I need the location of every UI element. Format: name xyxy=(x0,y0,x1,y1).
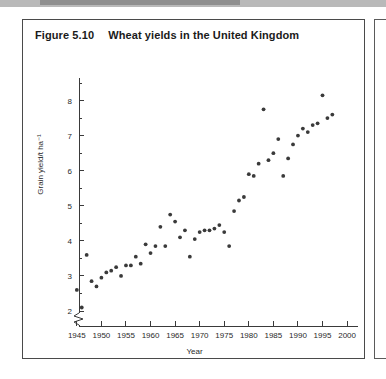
data-point xyxy=(129,264,133,268)
svg-text:7: 7 xyxy=(68,132,73,141)
data-point xyxy=(134,255,138,259)
svg-text:1975: 1975 xyxy=(215,331,233,340)
data-point xyxy=(306,130,310,134)
data-point xyxy=(252,174,256,178)
data-point xyxy=(149,251,153,255)
data-point xyxy=(237,199,241,203)
svg-text:1945: 1945 xyxy=(68,331,86,340)
svg-text:2: 2 xyxy=(68,307,73,316)
data-point xyxy=(114,265,118,269)
data-point xyxy=(163,244,167,248)
data-point xyxy=(227,244,231,248)
data-point xyxy=(183,228,187,232)
data-point xyxy=(222,230,226,234)
data-point xyxy=(330,113,334,117)
data-point xyxy=(124,264,128,268)
svg-text:1995: 1995 xyxy=(314,331,332,340)
figure-panel: Figure 5.10Wheat yields in the United Ki… xyxy=(22,19,365,359)
data-point xyxy=(213,227,217,231)
data-point xyxy=(139,262,143,266)
data-point xyxy=(173,220,177,224)
svg-text:6: 6 xyxy=(68,167,73,176)
svg-text:4: 4 xyxy=(68,237,73,246)
data-point xyxy=(232,209,236,213)
data-point xyxy=(291,142,295,146)
scatter-plot: 2345678194519501955196019651970197519801… xyxy=(23,20,366,360)
data-point xyxy=(203,228,207,232)
svg-text:1960: 1960 xyxy=(142,331,160,340)
svg-text:3: 3 xyxy=(68,272,73,281)
data-point xyxy=(296,134,300,138)
data-point xyxy=(316,121,320,125)
scan-band-top-dark xyxy=(40,0,240,5)
data-point xyxy=(286,157,290,161)
svg-text:1955: 1955 xyxy=(117,331,135,340)
data-point xyxy=(217,223,221,227)
svg-text:2000: 2000 xyxy=(338,331,356,340)
data-point xyxy=(208,228,212,232)
data-point xyxy=(247,172,251,176)
data-points xyxy=(75,93,334,309)
data-point xyxy=(119,274,123,278)
data-point xyxy=(80,306,84,310)
data-point xyxy=(158,225,162,229)
data-point xyxy=(90,279,94,283)
data-point xyxy=(75,288,79,292)
data-point xyxy=(257,162,261,166)
plot-axes xyxy=(74,78,358,326)
data-point xyxy=(262,107,266,111)
y-axis-title: Grain yield/t ha⁻¹ xyxy=(36,90,45,240)
svg-text:1985: 1985 xyxy=(264,331,282,340)
x-axis-title: Year xyxy=(23,347,366,356)
data-point xyxy=(321,93,325,97)
data-point xyxy=(104,271,108,275)
data-point xyxy=(144,242,148,246)
data-point xyxy=(242,195,246,199)
data-point xyxy=(301,127,305,131)
data-point xyxy=(85,253,89,257)
data-point xyxy=(276,137,280,141)
data-point xyxy=(198,230,202,234)
plot-svg: 2345678194519501955196019651970197519801… xyxy=(23,20,366,360)
tick-labels: 2345678194519501955196019651970197519801… xyxy=(68,97,357,340)
data-point xyxy=(100,276,104,280)
data-point xyxy=(168,213,172,217)
svg-text:1980: 1980 xyxy=(240,331,258,340)
svg-text:1990: 1990 xyxy=(289,331,307,340)
data-point xyxy=(95,285,99,289)
svg-text:1950: 1950 xyxy=(92,331,110,340)
svg-text:5: 5 xyxy=(68,202,73,211)
data-point xyxy=(311,123,315,127)
data-point xyxy=(193,237,197,241)
data-point xyxy=(109,269,113,273)
svg-text:8: 8 xyxy=(68,97,73,106)
data-point xyxy=(281,174,285,178)
data-point xyxy=(178,235,182,239)
data-point xyxy=(188,255,192,259)
data-point xyxy=(271,151,275,155)
page-root: Figure 5.10Wheat yields in the United Ki… xyxy=(0,0,386,379)
data-point xyxy=(326,116,330,120)
data-point xyxy=(267,158,271,162)
data-point xyxy=(154,244,158,248)
svg-text:1965: 1965 xyxy=(166,331,184,340)
adjacent-page-panel xyxy=(374,19,386,359)
svg-text:1970: 1970 xyxy=(191,331,209,340)
